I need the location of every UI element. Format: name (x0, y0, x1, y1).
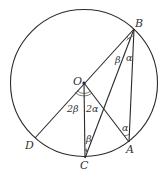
label-angle-coa: 2α (85, 103, 99, 114)
label-point-c: C (80, 159, 89, 172)
label-angle-cba: α (126, 52, 133, 63)
label-point-a: A (125, 143, 134, 156)
segment-oc (84, 83, 85, 158)
circle-diagram: B O D C A 2β 2α β α α β (0, 0, 165, 181)
segment-ba (129, 29, 134, 142)
label-point-b: B (134, 17, 143, 30)
label-point-o: O (73, 75, 82, 88)
label-angle-oab: α (122, 122, 129, 133)
angle-arc-coa (84, 91, 90, 93)
label-angle-doc: 2β (66, 103, 79, 114)
label-point-d: D (24, 139, 34, 152)
angle-arc-oab (124, 134, 129, 136)
label-angle-ocb: β (85, 133, 92, 144)
center-point (82, 81, 85, 84)
label-angle-obc: β (114, 54, 121, 65)
